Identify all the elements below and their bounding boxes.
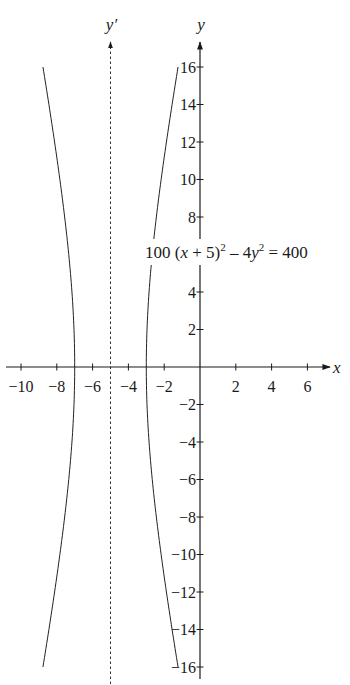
x-axis-label: x bbox=[332, 358, 341, 377]
x-tick-label: 2 bbox=[232, 378, 240, 395]
shifted-y-axis-label: y′ bbox=[104, 15, 118, 34]
y-tick-label: 8 bbox=[188, 209, 196, 226]
x-tick-label: −2 bbox=[156, 378, 173, 395]
y-axis-label: y bbox=[195, 15, 205, 34]
y-tick-label: 10 bbox=[180, 171, 196, 188]
y-tick-label: −14 bbox=[171, 621, 196, 638]
x-tick-label: −4 bbox=[120, 378, 137, 395]
y-tick-label: −10 bbox=[171, 546, 196, 563]
x-tick-label: 4 bbox=[268, 378, 276, 395]
y-tick-label: −4 bbox=[179, 434, 196, 451]
hyperbola-chart: y′ x y −10−8−6−4−2246 16141210842−2−4−6−… bbox=[0, 0, 350, 685]
x-tick-label: −6 bbox=[84, 378, 101, 395]
y-tick-label: −6 bbox=[179, 471, 196, 488]
y-tick-label: −8 bbox=[179, 509, 196, 526]
y-tick-label: 14 bbox=[180, 96, 196, 113]
x-axis-ticks: −10−8−6−4−2246 bbox=[8, 364, 311, 396]
y-tick-label: −16 bbox=[171, 659, 196, 676]
y-tick-label: 2 bbox=[188, 321, 196, 338]
y-tick-label: 12 bbox=[180, 134, 196, 151]
x-tick-label: −10 bbox=[8, 378, 33, 395]
equation-annotation: 100 (x + 5)2 – 4y2 = 400 bbox=[145, 241, 308, 262]
y-tick-label: 4 bbox=[188, 284, 196, 301]
x-tick-label: −8 bbox=[48, 378, 65, 395]
x-tick-label: 6 bbox=[303, 378, 311, 395]
y-tick-label: −12 bbox=[171, 584, 196, 601]
y-tick-label: −2 bbox=[179, 396, 196, 413]
y-tick-label: 16 bbox=[180, 59, 196, 76]
